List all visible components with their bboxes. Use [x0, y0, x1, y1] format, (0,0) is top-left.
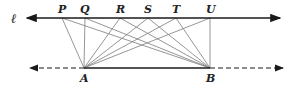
segment-AS [84, 18, 148, 68]
point-label-T: T [172, 3, 181, 16]
segment-BT [176, 18, 210, 68]
segment-BR [120, 18, 210, 68]
segment-AP [62, 18, 84, 68]
point-label-R: R [115, 3, 125, 16]
line-label-l: ℓ [11, 11, 17, 26]
connecting-segments [62, 18, 210, 68]
point-label-P: P [57, 3, 67, 16]
segment-AT [84, 18, 176, 68]
point-label-A: A [79, 72, 89, 85]
geometry-diagram: ℓ P Q R S T U A B [0, 0, 291, 88]
point-label-Q: Q [80, 3, 90, 16]
point-label-U: U [206, 3, 217, 16]
point-label-B: B [205, 72, 215, 85]
segment-BS [148, 18, 210, 68]
point-label-S: S [144, 3, 152, 16]
